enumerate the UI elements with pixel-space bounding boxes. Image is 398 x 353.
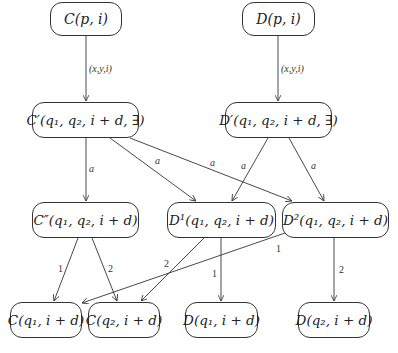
edge-label-d1-to-dq1: 1 [212,268,217,279]
edge-label-c-to-cprime: (x,y,i) [89,63,112,74]
node-d1: D¹(q₁, q₂, i + d) [167,202,276,238]
node-d-prime: D′(q₁, q₂, i + d, ∃) [225,102,332,138]
edge-label-cprime-to-d2: a [210,157,215,168]
edge-dprime-to-d1 [232,138,268,201]
edges-layer [0,0,398,353]
edge-cprime-to-d1 [110,138,196,201]
edge-cprime-to-d2 [130,138,292,201]
edge-label-cdprime-to-cq2: 2 [108,263,113,274]
edge-label-cprime-to-d1: a [155,155,160,166]
edge-label-d-to-dprime: (x,y,i) [281,63,304,74]
node-c-double-prime: C″(q₁, q₂, i + d) [32,202,139,238]
edge-label-dprime-to-d2: a [311,160,316,171]
edge-dprime-to-d2 [289,138,324,201]
node-c-q1: C(q₁, i + d) [10,302,82,338]
node-c-prime: C′(q₁, q₂, i + d, ∃) [32,102,139,138]
edge-label-cprime-to-cdprime: a [89,163,94,174]
edge-label-d1-to-cq2: 2 [164,258,169,269]
edge-label-d2-to-dq2: 2 [339,264,344,275]
edge-d1-to-cq2 [141,238,204,301]
edge-label-cdprime-to-cq1: 1 [58,263,63,274]
node-d-p-i: D(p, i) [242,2,315,36]
edge-cdprime-to-cq2 [92,238,117,301]
node-d-q2: D(q₂, i + d) [298,302,370,338]
node-c-p-i: C(p, i) [50,2,122,36]
edge-label-d2-to-cq1: 1 [276,243,281,254]
node-d-q1: D(q₁, i + d) [185,302,258,338]
node-c-q2: C(q₂, i + d) [88,302,160,338]
edge-label-dprime-to-d1: a [241,160,246,171]
node-d2: D²(q₁, q₂, i + d) [282,202,389,238]
